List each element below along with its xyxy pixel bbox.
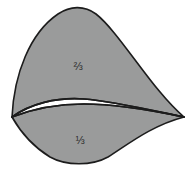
upper-lobe-fraction-label: ⅔: [73, 60, 82, 72]
fraction-lobe-diagram: ⅔ ⅓: [0, 0, 193, 169]
diagram-canvas: ⅔ ⅓: [0, 0, 193, 169]
lower-lobe-fraction-label: ⅓: [75, 134, 84, 146]
